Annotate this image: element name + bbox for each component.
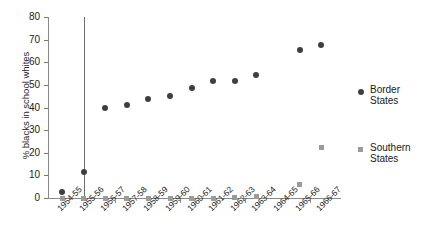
data-point-border-states xyxy=(124,102,130,108)
data-point-border-states xyxy=(232,78,238,84)
y-axis-tick-label: 10 xyxy=(14,170,40,180)
data-point-border-states xyxy=(102,105,108,111)
x-axis-tick-mark xyxy=(180,199,181,203)
x-axis-tick-mark xyxy=(245,199,246,203)
data-point-southern-states xyxy=(81,196,86,201)
data-point-southern-states xyxy=(146,196,151,201)
y-axis-tick-label: 50 xyxy=(14,80,40,90)
data-point-southern-states xyxy=(168,196,173,201)
y-axis-tick-mark xyxy=(44,40,48,41)
y-axis-tick-label: 70 xyxy=(14,35,40,45)
y-axis-tick-mark xyxy=(44,62,48,63)
y-axis-tick-mark xyxy=(44,85,48,86)
y-axis-tick-mark xyxy=(44,198,48,199)
legend-label-southern-states: SouthernStates xyxy=(370,142,430,164)
circle-marker-icon xyxy=(358,89,364,95)
data-point-southern-states xyxy=(189,196,194,201)
x-axis-tick-mark xyxy=(115,199,116,203)
legend-label-border-states: BorderStates xyxy=(370,84,430,106)
data-point-border-states xyxy=(145,96,151,102)
data-point-southern-states xyxy=(60,196,65,201)
y-axis-tick-mark xyxy=(44,130,48,131)
data-point-southern-states xyxy=(103,196,108,201)
data-point-border-states xyxy=(81,169,87,175)
y-axis-tick-mark xyxy=(44,108,48,109)
data-point-southern-states xyxy=(254,194,259,199)
y-axis-tick-mark xyxy=(44,175,48,176)
square-marker-icon xyxy=(358,147,363,152)
data-point-border-states xyxy=(59,189,65,195)
y-axis-tick-label: 80 xyxy=(14,12,40,22)
data-point-southern-states xyxy=(232,195,237,200)
data-point-southern-states xyxy=(297,182,302,187)
data-point-border-states xyxy=(297,47,303,53)
y-axis-tick-label: 60 xyxy=(14,57,40,67)
x-axis-tick-mark xyxy=(310,199,311,203)
data-point-southern-states xyxy=(319,145,324,150)
data-point-border-states xyxy=(189,85,195,91)
data-point-border-states xyxy=(318,42,324,48)
y-axis-tick-mark xyxy=(44,17,48,18)
y-axis-tick-mark xyxy=(44,153,48,154)
y-axis-tick-label: 30 xyxy=(14,125,40,135)
y-axis-tick-label: 40 xyxy=(14,103,40,113)
data-point-border-states xyxy=(210,78,216,84)
chart-container: % blacks in school whites 01020304050607… xyxy=(0,0,430,248)
data-point-border-states xyxy=(167,93,173,99)
y-axis-tick-label: 0 xyxy=(14,193,40,203)
data-point-border-states xyxy=(253,72,259,78)
data-point-southern-states xyxy=(211,196,216,201)
y-axis-line xyxy=(48,17,49,199)
y-axis-tick-label: 20 xyxy=(14,148,40,158)
data-point-southern-states xyxy=(124,196,129,201)
